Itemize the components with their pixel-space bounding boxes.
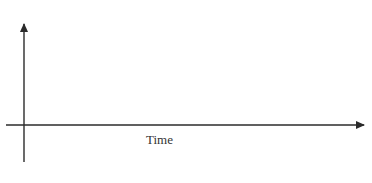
x-axis-label: Time <box>146 132 173 148</box>
axes-diagram <box>0 0 372 183</box>
